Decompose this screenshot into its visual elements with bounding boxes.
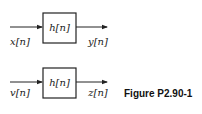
output-label-1: y[n] <box>87 36 108 47</box>
output-label-2: z[n] <box>87 87 108 98</box>
input-label-2: v[n] <box>10 87 30 98</box>
block-diagram: h[n] x[n] y[n] h[n] v[n] z[n] Figure P2.… <box>0 0 202 114</box>
figure-caption: Figure P2.90-1 <box>124 88 193 99</box>
system-2: h[n] v[n] z[n] <box>10 68 108 98</box>
input-label-1: x[n] <box>10 36 30 47</box>
block-label-2: h[n] <box>49 77 70 88</box>
system-1: h[n] x[n] y[n] <box>10 13 108 47</box>
block-label-1: h[n] <box>49 22 70 33</box>
